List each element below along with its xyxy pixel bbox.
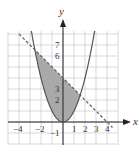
x-tick-label: −2 [35,124,45,134]
x-tick-label: 4 [105,124,110,134]
y-tick-label: −1 [50,128,60,138]
x-axis-label: x [132,115,138,127]
y-tick-label: 6 [55,51,60,61]
x-tick-label: 1 [72,124,77,134]
x-tick-label: 3 [94,124,99,134]
y-axis-arrow-icon [60,19,66,27]
y-tick-label: 2 [55,95,60,105]
y-axis-label: y [58,5,64,17]
x-tick-label: 2 [83,124,88,134]
y-tick-label: 7 [55,40,60,50]
x-tick-labels: −4−21234 [13,124,110,134]
chart: x y −4−21234 −12367 [0,0,139,155]
y-tick-label: 3 [55,84,60,94]
x-tick-label: −4 [13,124,23,134]
x-axis-arrow-icon [123,119,131,125]
